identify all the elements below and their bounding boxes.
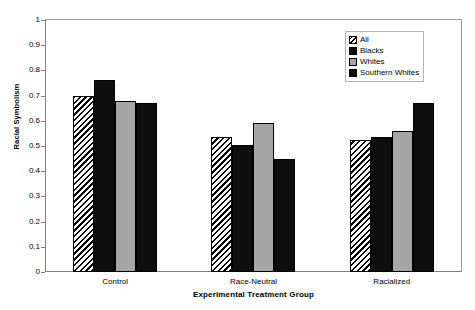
bar-blacks[interactable] (371, 137, 392, 272)
bar-whites[interactable] (115, 101, 136, 272)
legend-item-label: All (360, 35, 369, 44)
bar-southern-whites[interactable] (413, 103, 434, 272)
black-swatch (349, 47, 357, 55)
y-axis-tick-label: 0 (36, 268, 40, 276)
legend-item[interactable]: All (349, 34, 419, 45)
legend-item[interactable]: Southern Whites (349, 67, 419, 78)
y-axis-tick-label: 0.9 (29, 41, 40, 49)
y-axis-tick-label: 0.8 (29, 66, 40, 74)
legend-item-label: Southern Whites (360, 68, 419, 77)
y-axis-title: Racial Symbolism (12, 57, 21, 177)
bar-all[interactable] (211, 137, 232, 272)
x-axis-tick-label: Racialized (323, 277, 461, 291)
legend-item-label: Whites (360, 57, 384, 66)
bar-chart: 10.90.80.70.60.50.40.30.20.10 Racial Sym… (0, 0, 475, 310)
bar-blacks[interactable] (94, 80, 115, 272)
bar-southern-whites[interactable] (274, 159, 295, 272)
bar-group (184, 20, 322, 272)
y-axis-tick-label: 0.7 (29, 92, 40, 100)
legend-item[interactable]: Whites (349, 56, 419, 67)
y-axis-tick-label: 1 (36, 16, 40, 24)
x-axis-tick-label: Race-Neutral (184, 277, 322, 291)
bar-all[interactable] (73, 96, 94, 272)
bar-southern-whites[interactable] (136, 103, 157, 272)
bar-whites[interactable] (392, 131, 413, 272)
x-axis: ControlRace-NeutralRacialized (46, 277, 461, 291)
y-axis-tick-label: 0.1 (29, 243, 40, 251)
cropped-title-text (0, 0, 475, 7)
y-axis-tick-label: 0.3 (29, 192, 40, 200)
bar-all[interactable] (350, 140, 371, 272)
legend-item[interactable]: Blacks (349, 45, 419, 56)
y-axis-tick-label: 0.5 (29, 142, 40, 150)
black-swatch (349, 69, 357, 77)
bar-blacks[interactable] (232, 145, 253, 272)
bar-whites[interactable] (253, 123, 274, 272)
x-axis-tick-label: Control (46, 277, 184, 291)
x-axis-title: Experimental Treatment Group (46, 290, 461, 299)
legend-item-label: Blacks (360, 46, 384, 55)
legend: AllBlacksWhitesSouthern Whites (345, 31, 424, 82)
y-axis-tick-label: 0.2 (29, 218, 40, 226)
bar-group (46, 20, 184, 272)
hatch-swatch (349, 36, 357, 44)
gray-swatch (349, 58, 357, 66)
y-axis: 10.90.80.70.60.50.40.30.20.10 (0, 0, 45, 273)
y-axis-tick-label: 0.6 (29, 117, 40, 125)
y-axis-tick-label: 0.4 (29, 167, 40, 175)
y-axis-tick-mark (41, 272, 45, 273)
